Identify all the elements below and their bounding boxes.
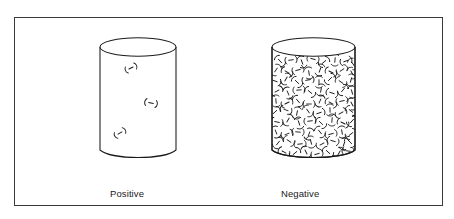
figure-border [14, 17, 443, 206]
caption-negative-charge: Negative charge [281, 165, 319, 219]
caption-negative-line1: Negative [281, 188, 319, 200]
caption-positive-line1: Positive [110, 188, 144, 200]
caption-positive-charge: Positive charge [110, 165, 144, 219]
figure-root: Positive charge Negative charge [0, 0, 454, 219]
